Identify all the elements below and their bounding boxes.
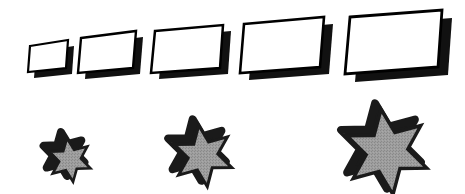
parallelogram-5-body	[345, 10, 442, 74]
parallelogram-4-body	[240, 17, 324, 73]
parallelogram-1-body	[28, 40, 68, 72]
parallelogram-1	[28, 40, 74, 78]
parallelogram-4	[240, 17, 333, 80]
parallelogram-3	[151, 25, 231, 79]
parallelogram-5	[345, 10, 452, 82]
parallelogram-2	[78, 31, 143, 79]
figure-svg	[0, 0, 465, 194]
figure-canvas	[0, 0, 465, 194]
parallelogram-3-body	[151, 25, 223, 73]
parallelogram-2-body	[78, 31, 136, 73]
